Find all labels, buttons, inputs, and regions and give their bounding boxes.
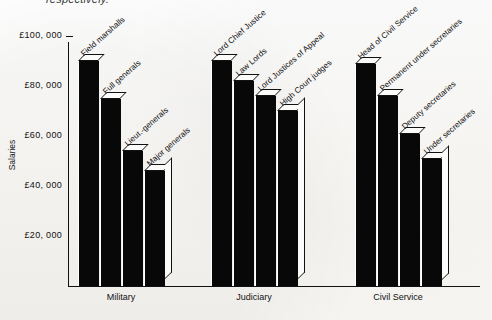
group-label: Military: [78, 292, 164, 302]
y-tick-label: £40, 000: [25, 180, 62, 190]
bar[interactable]: [78, 61, 99, 286]
bar-label: Deputy secretaries: [400, 79, 458, 131]
bar-side-face: [165, 157, 172, 279]
y-axis-line: [68, 42, 69, 287]
bar[interactable]: [255, 96, 276, 286]
bar[interactable]: [277, 111, 298, 286]
y-tick-label: £20, 000: [25, 230, 62, 240]
bar[interactable]: [377, 96, 398, 286]
y-tick-label: £100, 000: [19, 30, 62, 40]
bar-side-face: [298, 97, 305, 279]
y-tick-mark: [66, 36, 73, 37]
y-axis-title: Salaries: [7, 125, 17, 185]
bar[interactable]: [233, 81, 254, 286]
bar[interactable]: [399, 134, 420, 287]
bar-label: Field marshalls: [79, 15, 127, 58]
bar[interactable]: [100, 99, 121, 287]
group-label: Civil Service: [355, 292, 441, 302]
group-label: Judiciary: [211, 292, 297, 302]
bar[interactable]: [355, 64, 376, 287]
bar-label: Lieut.-generals: [123, 106, 170, 148]
x-axis-line: [68, 286, 480, 287]
bar[interactable]: [144, 171, 165, 286]
y-tick-label: £60, 000: [25, 130, 62, 140]
y-tick-label: £80, 000: [25, 80, 62, 90]
bar-label: Full generals: [101, 58, 142, 96]
bar[interactable]: [211, 61, 232, 286]
bar[interactable]: [421, 159, 442, 287]
bar-side-face: [442, 145, 449, 279]
bar-chart: Salaries £100, 000£80, 000£60, 000£40, 0…: [0, 0, 492, 320]
bar-label: Under secretaries: [422, 106, 477, 155]
bar[interactable]: [122, 151, 143, 286]
bar-label: Lord Justices of Appeal: [256, 30, 326, 93]
bar-label: Head of Civil Service: [356, 4, 420, 61]
